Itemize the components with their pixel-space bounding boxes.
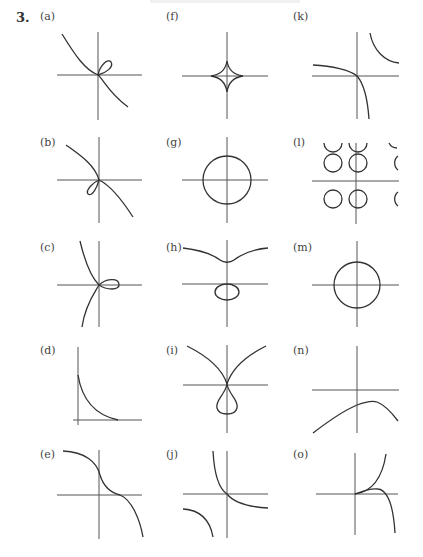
graph-e xyxy=(57,450,143,539)
graph-h xyxy=(182,240,268,327)
graph-n xyxy=(312,346,399,433)
graph-d xyxy=(73,347,142,425)
graph-o xyxy=(316,453,398,535)
graph-k xyxy=(312,32,399,119)
graph-g xyxy=(182,137,268,223)
graph-f xyxy=(182,32,268,119)
graphs-canvas xyxy=(0,0,423,557)
graph-j xyxy=(183,451,268,538)
graph-m xyxy=(312,241,399,327)
graph-i xyxy=(183,345,268,433)
graph-l xyxy=(312,143,399,224)
graph-c xyxy=(57,241,142,327)
graph-b xyxy=(57,137,142,223)
graph-a xyxy=(57,32,142,120)
